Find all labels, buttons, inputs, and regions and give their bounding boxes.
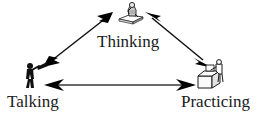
node-label-talking: Talking xyxy=(7,93,59,110)
diagram-canvas: Thinking Talking Practicing xyxy=(0,0,257,117)
connector-thinking-practicing-line xyxy=(152,18,203,60)
thinker-statue-icon xyxy=(119,2,143,24)
speaker-head xyxy=(27,63,33,69)
person-with-megaphone-icon xyxy=(26,62,48,88)
worker-head xyxy=(217,60,222,65)
figure-head xyxy=(129,2,134,7)
desk-board xyxy=(206,65,214,71)
arrowhead-toward-thinking-left xyxy=(97,12,113,23)
node-label-thinking: Thinking xyxy=(97,33,159,50)
connector-talking-practicing xyxy=(44,79,196,91)
speaker-legs xyxy=(26,79,34,88)
arrowhead-toward-thinking-right xyxy=(145,12,161,22)
node-label-practicing: Practicing xyxy=(181,93,250,110)
worker-body xyxy=(216,64,222,74)
desk-front xyxy=(198,76,212,88)
